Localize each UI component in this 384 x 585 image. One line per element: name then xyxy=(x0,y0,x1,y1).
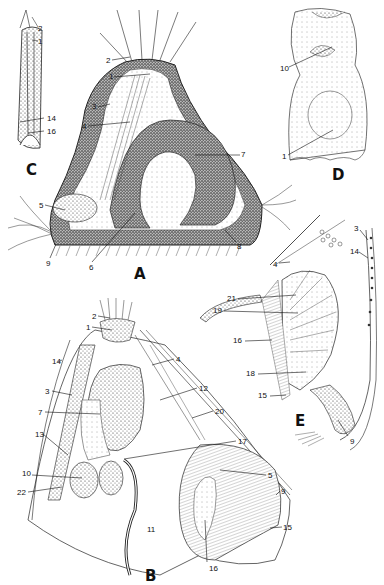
panel-b-label: 14 xyxy=(52,358,61,366)
panel-a-label: 4 xyxy=(82,123,86,131)
panel-b-label: 17 xyxy=(238,438,247,446)
panel-b-label: 13 xyxy=(35,431,44,439)
panel-e-label: 16 xyxy=(233,337,242,345)
panel-letter-d: D xyxy=(332,166,344,184)
panel-letter-a: A xyxy=(134,265,146,283)
panel-a-label: 5 xyxy=(39,202,43,210)
panel-e-label: 3 xyxy=(354,225,358,233)
panel-e-label: 19 xyxy=(213,307,222,315)
panel-b-label: 9 xyxy=(281,488,285,496)
panel-b-label: 1 xyxy=(86,324,90,332)
panel-a-label: 1 xyxy=(109,73,113,81)
panel-c-label: 16 xyxy=(47,128,56,136)
panel-b-label: 3 xyxy=(45,388,49,396)
panel-b-drawing xyxy=(28,298,292,575)
panel-d-drawing xyxy=(288,8,367,160)
panel-a-label: 7 xyxy=(241,151,245,159)
panel-b-label: 12 xyxy=(199,385,208,393)
panel-b-label: 5 xyxy=(268,472,272,480)
panel-a-label: 6 xyxy=(89,264,93,272)
panel-b-label: 7 xyxy=(38,409,42,417)
panel-b-label: 20 xyxy=(215,408,224,416)
panel-e-label: 18 xyxy=(246,370,255,378)
panel-e-label: 14 xyxy=(350,248,359,256)
panel-letter-b: B xyxy=(145,567,156,585)
panel-c-label: 1 xyxy=(38,38,42,46)
panel-b-label: 4 xyxy=(176,356,180,364)
panel-e-label: 9 xyxy=(350,438,354,446)
panel-d-label: 1 xyxy=(282,153,286,161)
panel-a-label: 8 xyxy=(237,243,241,251)
panel-a-label: 9 xyxy=(46,260,50,268)
panel-e-label: 15 xyxy=(258,392,267,400)
panel-a-label: 2 xyxy=(106,57,110,65)
panel-c-label: 2 xyxy=(38,25,42,33)
panel-b-label: 10 xyxy=(22,470,31,478)
panel-b-label: 22 xyxy=(17,489,26,497)
panel-b-label: 11 xyxy=(147,526,155,534)
panel-b-label: 15 xyxy=(283,524,292,532)
panel-d-label: 10 xyxy=(280,65,289,73)
figure-canvas xyxy=(0,0,384,585)
panel-b-label: 2 xyxy=(92,313,96,321)
panel-letter-e: E xyxy=(295,412,305,430)
panel-a-label: 3 xyxy=(92,103,96,111)
panel-e-label: 21 xyxy=(227,295,236,303)
panel-e-label: 4 xyxy=(273,261,277,269)
panel-letter-c: C xyxy=(26,161,37,179)
panel-c-label: 14 xyxy=(47,115,56,123)
panel-b-label: 16 xyxy=(209,565,218,573)
panel-a-drawing xyxy=(8,10,296,262)
